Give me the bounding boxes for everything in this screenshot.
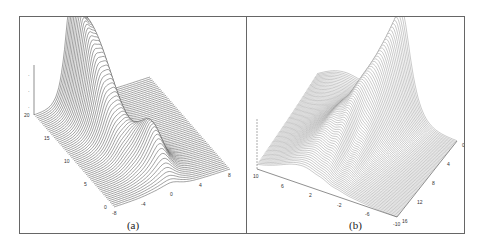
z-tick-a: · — [28, 72, 30, 78]
x-tick-a: -4 — [141, 201, 146, 207]
y-tick-a: 15 — [44, 135, 50, 141]
y-tick-b: 4 — [447, 161, 450, 167]
x-tick-a: 4 — [199, 182, 202, 188]
z-tick-a: · — [28, 104, 30, 110]
surface-plot-b: 1062-2-6-100481216 — [247, 17, 464, 233]
y-tick-a: 20 — [24, 112, 30, 118]
surface-mesh-a — [34, 17, 230, 208]
y-tick-b: 12 — [417, 199, 423, 205]
panel-b: 1062-2-6-100481216 (b) — [247, 17, 464, 233]
caption-a: (a) — [20, 219, 246, 231]
x-tick-b: -2 — [337, 202, 342, 208]
x-tick-a: -8 — [112, 210, 117, 216]
z-tick-a: · — [28, 88, 30, 94]
panel-a: ···-8-404805101520 (a) — [20, 17, 246, 233]
y-tick-a: 5 — [84, 181, 87, 187]
y-tick-a: 10 — [64, 158, 70, 164]
x-tick-a: 0 — [170, 191, 173, 197]
x-tick-b: 2 — [309, 192, 312, 198]
y-tick-b: 8 — [432, 180, 435, 186]
surface-mesh-b — [257, 17, 457, 218]
x-tick-b: 6 — [281, 183, 284, 189]
x-tick-a: 8 — [228, 172, 231, 178]
caption-b: (b) — [247, 219, 464, 231]
y-tick-b: 0 — [462, 142, 464, 148]
y-tick-a: 0 — [104, 204, 107, 210]
surface-plot-a: ···-8-404805101520 — [20, 17, 246, 233]
x-tick-b: 10 — [253, 173, 259, 179]
x-tick-b: -6 — [365, 211, 370, 217]
